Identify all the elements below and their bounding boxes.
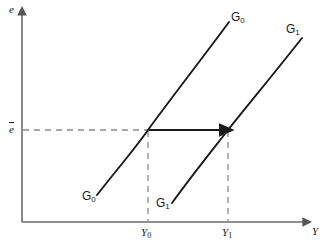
economics-diagram: e Y e G0 G1 G0 G1 Y0 Y1 [0, 0, 328, 246]
y-axis-label: e [9, 4, 14, 15]
e-bar-glyph: e [9, 124, 14, 135]
curve-label-g1-top: G1 [286, 23, 300, 35]
curve-g0 [97, 22, 229, 195]
curve-label-g1-top-letter: G [286, 22, 295, 36]
curve-label-g0-top: G0 [231, 11, 245, 23]
curve-label-g0-bottom-sub: 0 [91, 195, 95, 204]
curve-label-g1-bottom: G1 [156, 197, 170, 209]
x-axis-label: Y [312, 226, 318, 237]
curve-label-g0-top-letter: G [231, 10, 240, 24]
curve-label-g1-bottom-sub: 1 [165, 202, 169, 211]
curve-label-g1-bottom-letter: G [156, 196, 165, 210]
curve-label-g0-bottom-letter: G [82, 189, 91, 203]
curve-label-g0-bottom: G0 [82, 190, 96, 202]
x-tick-label-y0-sub: 0 [147, 231, 151, 240]
curve-label-g0-top-sub: 0 [240, 16, 244, 25]
x-tick-label-y1: Y1 [222, 227, 232, 238]
x-tick-label-y1-sub: 1 [228, 231, 232, 240]
e-bar-label: e [9, 124, 14, 135]
curve-g1 [172, 38, 302, 203]
curve-label-g1-top-sub: 1 [295, 28, 299, 37]
e-bar-letter: e [9, 123, 14, 135]
overbar [9, 122, 14, 123]
x-tick-label-y0: Y0 [141, 227, 151, 238]
